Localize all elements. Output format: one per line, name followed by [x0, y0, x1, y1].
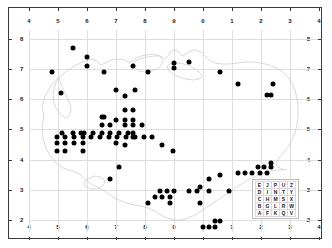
record-dot — [122, 122, 127, 127]
grid-letter-key-cell: F — [264, 210, 272, 217]
x-tick-mark-bottom — [319, 237, 320, 240]
record-dot — [63, 141, 68, 146]
record-dot — [256, 165, 261, 170]
record-dot — [264, 171, 269, 176]
record-dot — [71, 135, 76, 140]
y-tick-mark-right — [318, 190, 321, 191]
y-tick-mark-right — [318, 129, 321, 130]
record-dot — [198, 201, 203, 206]
record-dot — [261, 165, 266, 170]
grid-letter-key-cell: B — [256, 203, 264, 210]
x-tick-mark-bottom — [203, 237, 204, 240]
record-dot — [164, 189, 169, 194]
record-dot — [50, 70, 55, 75]
grid-letter-key-cell: I — [264, 189, 272, 196]
record-dot — [160, 195, 165, 200]
grid-letter-key: EJPUZDINTYCHMSXBGLRWAFKQV — [252, 179, 299, 219]
record-dot — [63, 135, 68, 140]
grid-letter-key-row: CHMSX — [256, 196, 296, 203]
y-tick-mark-right — [318, 160, 321, 161]
record-dot — [218, 219, 223, 224]
record-dot — [98, 135, 103, 140]
y-tick-mark-right — [318, 39, 321, 40]
y-tick-mark-left — [9, 190, 12, 191]
record-dot — [157, 189, 162, 194]
grid-letter-key-cell: X — [288, 196, 296, 203]
x-tick-label-top: 8 — [140, 18, 150, 24]
grid-letter-key-cell: N — [272, 189, 280, 196]
grid-letter-key-cell: R — [280, 203, 288, 210]
grid-letter-key-row: AFKQV — [256, 210, 296, 217]
x-tick-mark-top — [232, 8, 233, 11]
record-dot — [206, 189, 211, 194]
x-tick-mark-bottom — [58, 237, 59, 240]
plot-frame: 45678901234 45678901234 8765432 8765432 … — [8, 7, 322, 239]
grid-letter-key-row: BGLRW — [256, 203, 296, 210]
record-dot — [243, 171, 248, 176]
y-tick-label-left: 2 — [20, 217, 28, 223]
grid-letter-key-cell: U — [280, 182, 288, 189]
y-tick-mark-right — [318, 69, 321, 70]
y-tick-label-left: 3 — [20, 187, 28, 193]
x-tick-label-top: 7 — [111, 18, 121, 24]
record-dot — [99, 122, 104, 127]
y-tick-label-left: 5 — [20, 126, 28, 132]
x-tick-label-top: 4 — [314, 18, 324, 24]
x-tick-label-top: 9 — [169, 18, 179, 24]
record-dot — [131, 135, 136, 140]
record-dot — [70, 46, 75, 51]
y-tick-mark-left — [9, 129, 12, 130]
record-dot — [145, 70, 150, 75]
record-dot — [218, 70, 223, 75]
x-tick-mark-top — [261, 8, 262, 11]
record-dot — [108, 122, 113, 127]
grid-letter-key-table: EJPUZDINTYCHMSXBGLRWAFKQV — [255, 181, 296, 217]
grid-letter-key-cell: H — [264, 196, 272, 203]
x-tick-mark-bottom — [145, 237, 146, 240]
x-tick-mark-bottom — [116, 237, 117, 240]
record-dot — [124, 135, 129, 140]
record-dot — [150, 135, 155, 140]
record-dot — [170, 148, 175, 153]
y-tick-mark-left — [9, 69, 12, 70]
grid-letter-key-cell: C — [256, 196, 264, 203]
record-dot — [108, 177, 113, 182]
x-tick-label-top: 2 — [256, 18, 266, 24]
x-tick-label-top: 3 — [285, 18, 295, 24]
record-dot — [85, 64, 90, 69]
x-tick-mark-top — [116, 8, 117, 11]
record-dot — [257, 171, 262, 176]
grid-letter-key-cell: A — [256, 210, 264, 217]
y-tick-mark-right — [318, 220, 321, 221]
grid-letter-key-cell: E — [256, 182, 264, 189]
y-tick-label-left: 8 — [20, 36, 28, 42]
grid-letter-key-row: EJPUZ — [256, 182, 296, 189]
grid-letter-key-cell: P — [272, 182, 280, 189]
x-tick-mark-top — [29, 8, 30, 11]
y-tick-label-left: 6 — [20, 96, 28, 102]
record-dot — [195, 189, 200, 194]
grid-letter-key-cell: K — [272, 210, 280, 217]
y-tick-mark-left — [9, 160, 12, 161]
record-dot — [270, 82, 275, 87]
record-dot — [115, 135, 120, 140]
record-dot — [63, 148, 68, 153]
record-dot — [114, 141, 119, 146]
y-tick-mark-left — [9, 220, 12, 221]
record-dot — [54, 141, 59, 146]
record-dot — [122, 94, 127, 99]
record-dot — [71, 141, 76, 146]
record-dot — [122, 107, 127, 112]
grid-letter-key-cell: Z — [288, 182, 296, 189]
record-dot — [54, 135, 59, 140]
x-tick-label-top: 6 — [82, 18, 92, 24]
record-dot — [132, 88, 137, 93]
x-tick-mark-bottom — [29, 237, 30, 240]
record-dot — [141, 135, 146, 140]
x-tick-label-top: 0 — [198, 18, 208, 24]
x-tick-label-top: 5 — [53, 18, 63, 24]
x-tick-mark-bottom — [174, 237, 175, 240]
grid-letter-key-cell: S — [280, 196, 288, 203]
grid-letter-key-cell: J — [264, 182, 272, 189]
record-dot — [186, 189, 191, 194]
